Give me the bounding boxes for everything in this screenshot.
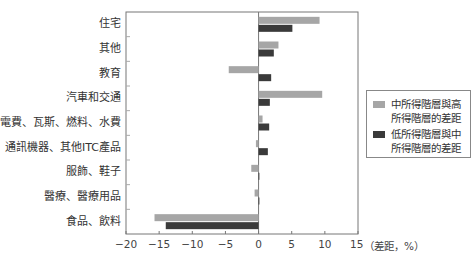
category-label: 其他	[99, 43, 121, 55]
category-label: 住宅	[99, 18, 121, 30]
bar-low-middle	[259, 198, 260, 205]
bar-middle-high	[251, 165, 258, 172]
legend-swatch-dark	[373, 131, 385, 138]
x-tick-label: −15	[148, 238, 170, 250]
x-tick-label: 15	[350, 238, 363, 250]
bar-low-middle	[259, 25, 293, 32]
category-label: 電費、瓦斯、燃料、水費	[0, 117, 121, 129]
bar-chart: 住宅其他教育汽車和交通電費、瓦斯、燃料、水費通訊機器、其他ITC產品服飾、鞋子醫…	[0, 0, 476, 255]
x-tick-label: 5	[288, 238, 295, 250]
category-label: 通訊機器、其他ITC產品	[5, 142, 121, 154]
category-label: 服飾、鞋子	[66, 166, 121, 178]
bar-low-middle	[259, 173, 260, 180]
bar-middle-high	[229, 66, 259, 73]
bar-low-middle	[166, 222, 259, 229]
category-label: 醫療、醫療用品	[44, 191, 121, 203]
bar-middle-high	[259, 17, 320, 24]
category-label: 教育	[99, 68, 121, 80]
x-tick-label: 0	[255, 238, 262, 250]
legend-label: 低所得階層與中所得階層的差距	[391, 127, 469, 155]
bar-low-middle	[259, 148, 268, 155]
legend-item-middle-high: 中所得階層與高所得階層的差距	[373, 97, 469, 125]
legend: 中所得階層與高所得階層的差距 低所得階層與中所得階層的差距	[366, 90, 471, 158]
legend-swatch-gray	[373, 101, 385, 108]
bar-low-middle	[259, 99, 270, 106]
bar-middle-high	[259, 116, 263, 123]
x-tick-label: −10	[181, 238, 203, 250]
bar-low-middle	[259, 124, 270, 131]
bar-middle-high	[155, 214, 259, 221]
plot-frame	[126, 12, 358, 234]
category-label: 食品、飲料	[66, 216, 121, 228]
x-tick-label: 10	[318, 238, 331, 250]
bar-low-middle	[259, 74, 272, 81]
x-tick-label: −5	[218, 238, 233, 250]
legend-label: 中所得階層與高所得階層的差距	[391, 97, 469, 125]
x-axis-unit-label: （差距，%）	[364, 238, 424, 253]
bar-middle-high	[259, 91, 323, 98]
bar-low-middle	[259, 50, 274, 57]
bar-middle-high	[259, 42, 279, 49]
x-tick-label: −20	[115, 238, 137, 250]
bar-middle-high	[255, 190, 259, 197]
legend-item-low-middle: 低所得階層與中所得階層的差距	[373, 127, 469, 155]
category-label: 汽車和交通	[66, 92, 121, 104]
bar-middle-high	[256, 140, 259, 147]
